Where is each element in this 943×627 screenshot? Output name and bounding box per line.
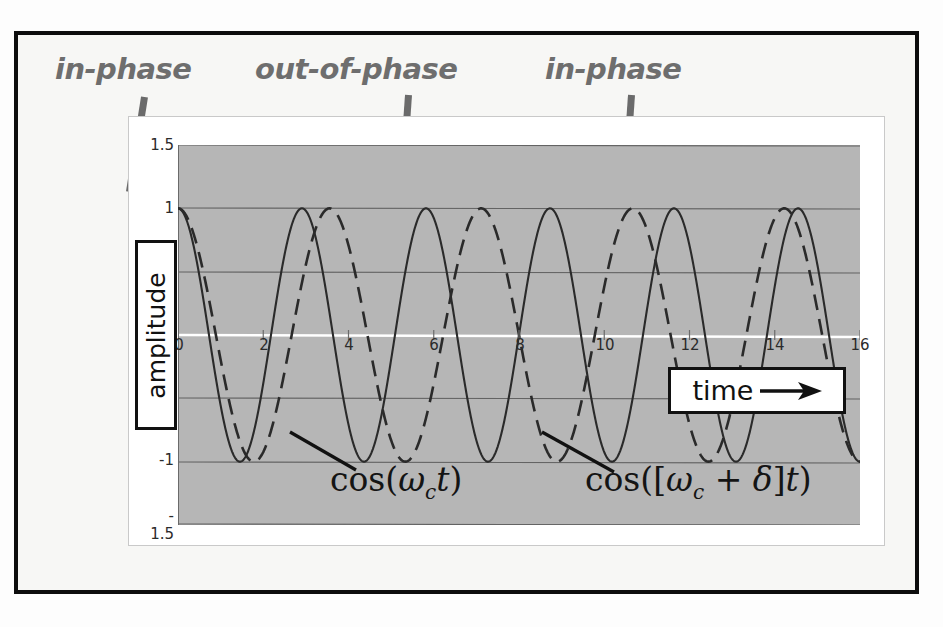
equation-1-omega: ω xyxy=(666,460,693,499)
callout-label-in-phase-right: in-phase xyxy=(545,52,682,86)
equation-0-omega: ω xyxy=(398,460,425,499)
equation-1-subscript: c xyxy=(693,480,704,504)
figure-canvas: in-phase out-of-phase in-phase xyxy=(0,0,943,627)
callout-label-out-of-phase: out-of-phase xyxy=(255,52,457,86)
equation-cos-omega-c-plus-delta: cos([ωc + δ]t) xyxy=(585,460,812,504)
y-tick-label-1: 1 xyxy=(130,201,174,216)
equation-0-subscript: c xyxy=(425,480,436,504)
equation-1-close: ) xyxy=(799,460,812,499)
x-tick-label-16: 16 xyxy=(845,336,875,354)
x-tick-label-12: 12 xyxy=(675,336,705,354)
gridline-1-5 xyxy=(178,145,860,146)
equation-1-text: cos([ xyxy=(585,460,666,499)
equation-0-text: cos( xyxy=(330,460,398,499)
equation-0-variable: t xyxy=(436,460,449,499)
y-axis-label-box: amplitude xyxy=(135,240,177,430)
equation-1-delta: δ xyxy=(753,460,773,499)
equation-1-bracket: ] xyxy=(773,460,786,499)
gridline-1 xyxy=(178,208,860,209)
y-axis-label: amplitude xyxy=(142,272,171,398)
callout-label-in-phase-left: in-phase xyxy=(55,52,192,86)
y-tick-label-1-5: 1.5 xyxy=(130,138,174,153)
y-tick-label-neg-1-5-dash: - xyxy=(130,509,174,524)
equation-1-plus: + xyxy=(704,460,753,499)
right-arrow-icon xyxy=(760,380,822,402)
y-tick-label-neg-1-5: 1.5 xyxy=(130,527,174,542)
equation-1-variable: t xyxy=(786,460,799,499)
x-axis-label: time xyxy=(692,375,753,406)
x-axis-label-box: time xyxy=(668,367,846,414)
equation-cos-omega-c: cos(ωct) xyxy=(330,460,462,504)
y-tick-label-neg-1: -1 xyxy=(130,453,174,468)
x-tick-label-4: 4 xyxy=(334,336,364,354)
x-tick-label-10: 10 xyxy=(590,336,620,354)
x-tick-label-6: 6 xyxy=(419,336,449,354)
gridline-neg-1-5 xyxy=(178,524,860,525)
x-tick-label-2: 2 xyxy=(249,336,279,354)
x-tick-label-8: 8 xyxy=(505,336,535,354)
equation-0-close: ) xyxy=(450,460,463,499)
x-tick-label-14: 14 xyxy=(760,336,790,354)
